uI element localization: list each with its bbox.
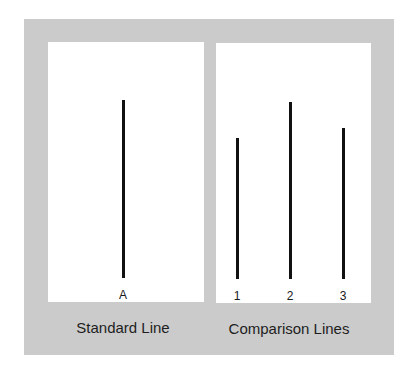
comparison-line-1 <box>236 138 239 279</box>
comparison-line-label-2: 2 <box>287 290 294 302</box>
comparison-line-3 <box>342 128 345 279</box>
standard-line-caption: Standard Line <box>76 320 169 336</box>
comparison-line-label-3: 3 <box>340 290 347 302</box>
standard-line-a <box>122 100 125 278</box>
standard-line-label: A <box>119 289 127 301</box>
comparison-line-2 <box>289 102 292 279</box>
standard-line-panel <box>48 42 204 302</box>
comparison-line-label-1: 1 <box>234 290 241 302</box>
comparison-lines-caption: Comparison Lines <box>229 321 350 337</box>
comparison-lines-panel <box>216 43 371 303</box>
